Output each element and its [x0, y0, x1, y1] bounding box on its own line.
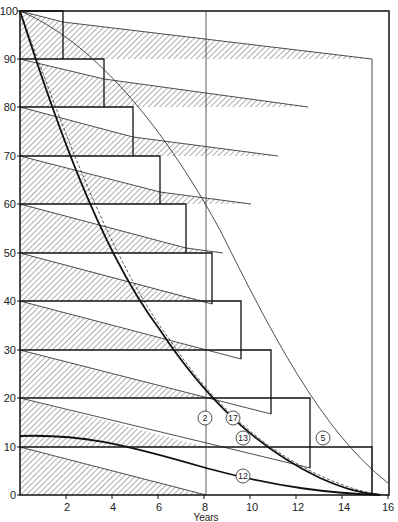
svg-text:2: 2: [202, 413, 207, 423]
x-tick-label: 16: [382, 501, 394, 513]
y-tick-label: 90: [4, 53, 16, 65]
curve-label-12: 12: [236, 469, 250, 483]
y-tick-label: 10: [4, 441, 16, 453]
y-tick-label: 80: [4, 101, 16, 113]
x-tick-label: 4: [110, 501, 116, 513]
svg-text:17: 17: [228, 413, 238, 423]
chart: 0 10 20 30 40 50 60 70 80 90 100 2 4 6 8…: [0, 0, 398, 522]
y-tick-label: 40: [4, 295, 16, 307]
y-tick-label: 60: [4, 198, 16, 210]
x-axis: 2 4 6 8 10 12 14 16 Years: [64, 495, 394, 522]
x-tick-label: 6: [156, 501, 162, 513]
x-tick-label: 10: [246, 501, 258, 513]
y-tick-label: 20: [4, 392, 16, 404]
curve-label-13: 13: [236, 431, 250, 445]
svg-text:13: 13: [238, 433, 248, 443]
curve-label-2: 2: [198, 411, 212, 425]
y-tick-label: 0: [10, 489, 16, 501]
y-tick-label: 30: [4, 344, 16, 356]
y-tick-label: 70: [4, 150, 16, 162]
x-tick-label: 12: [292, 501, 304, 513]
y-tick-label: 100: [0, 5, 18, 17]
y-tick-label: 50: [4, 247, 16, 259]
curve-label-17: 17: [226, 411, 240, 425]
x-axis-label: Years: [193, 512, 218, 522]
y-axis: 0 10 20 30 40 50 60 70 80 90 100: [0, 5, 20, 501]
svg-text:12: 12: [238, 471, 248, 481]
curve-label-5: 5: [316, 431, 330, 445]
x-tick-label: 2: [64, 501, 70, 513]
svg-text:5: 5: [320, 433, 325, 443]
x-tick-label: 14: [338, 501, 350, 513]
